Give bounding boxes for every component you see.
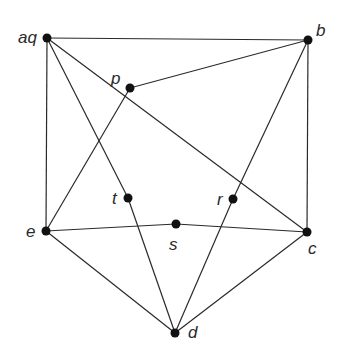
node-label-b: b [316,21,325,40]
graph-diagram: aqbptrsecd [0,0,338,351]
edge-e-d [46,231,175,333]
edge-e-s [46,224,176,231]
node-label-aq: aq [18,28,37,47]
edge-t-d [128,198,175,333]
node-aq [43,34,52,43]
edge-r-d [175,199,233,333]
edge-aq-t [47,38,128,198]
labels-layer: aqbptrsecd [18,21,325,342]
node-label-p: p [110,69,120,88]
node-label-d: d [188,323,198,342]
edge-p-e [46,88,130,231]
edges-layer [46,38,308,333]
edge-c-d [175,232,307,333]
node-p [126,84,135,93]
node-s [172,220,181,229]
node-r [229,195,238,204]
nodes-layer [42,34,313,338]
node-e [42,227,51,236]
edge-aq-b [47,38,308,40]
node-label-t: t [112,189,118,208]
node-label-s: s [169,235,178,254]
node-c [303,228,312,237]
edge-aq-e [46,38,47,231]
edge-b-p [130,40,308,88]
edge-aq-c [47,38,307,232]
node-label-r: r [217,190,224,209]
node-label-e: e [26,222,35,241]
edge-s-c [176,224,307,232]
node-d [171,329,180,338]
node-b [304,36,313,45]
node-t [124,194,133,203]
edge-b-c [307,40,308,232]
edge-b-r [233,40,308,199]
node-label-c: c [308,239,317,258]
